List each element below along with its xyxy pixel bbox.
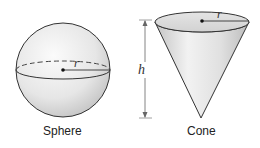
sphere-caption: Sphere bbox=[43, 124, 82, 138]
sphere-radius-label: r bbox=[74, 56, 79, 71]
arrow-down-icon bbox=[143, 112, 148, 118]
cone-caption: Cone bbox=[187, 124, 216, 138]
sphere-center-dot bbox=[61, 68, 65, 72]
cone-center-dot bbox=[200, 19, 204, 23]
cone-height-label: h bbox=[138, 62, 145, 78]
sphere-figure bbox=[16, 23, 110, 117]
cone-radius-label: r bbox=[217, 7, 222, 22]
cone-figure bbox=[155, 12, 249, 118]
arrow-up-icon bbox=[143, 20, 148, 26]
diagram-canvas bbox=[0, 0, 260, 148]
